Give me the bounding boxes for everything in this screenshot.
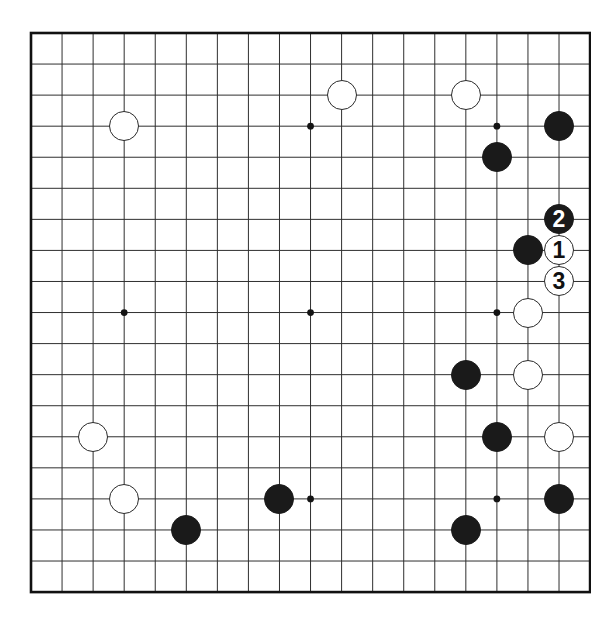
- star-point: [307, 309, 314, 316]
- star-point: [494, 309, 501, 316]
- star-point: [307, 496, 314, 503]
- board-grid: [0, 0, 591, 626]
- star-point: [307, 123, 314, 130]
- star-point: [121, 123, 128, 130]
- star-point: [494, 496, 501, 503]
- star-point: [494, 123, 501, 130]
- star-point: [121, 309, 128, 316]
- go-board-diagram: 213: [0, 0, 591, 626]
